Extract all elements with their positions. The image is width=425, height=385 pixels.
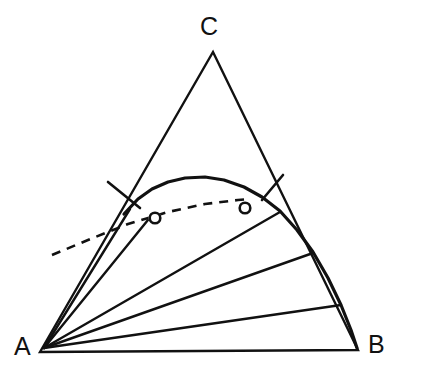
binodal-curve [124, 177, 357, 348]
tie-line-5 [44, 305, 341, 348]
vertex-label-a: A [14, 334, 31, 359]
tie-line-4 [44, 253, 313, 348]
tie-line-3 [44, 212, 280, 348]
binodal-curve-group [124, 177, 357, 348]
vertex-label-c: C [200, 14, 218, 39]
triangle-border [40, 52, 358, 352]
edge-tick-group [108, 175, 283, 208]
tie-line-1 [44, 209, 130, 348]
triangle-outline [40, 52, 358, 352]
ternary-diagram-canvas [0, 0, 425, 385]
vertex-label-b: B [368, 332, 385, 357]
ternary-diagram-figure: A B C [0, 0, 425, 385]
